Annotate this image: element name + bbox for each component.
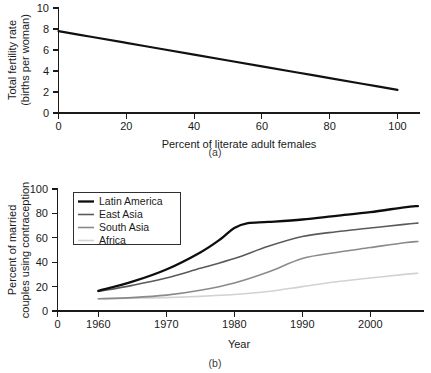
y-axis-ticks [52, 189, 58, 311]
y-axis-title-line1: Percent of married [6, 205, 18, 295]
legend-label-latin-america: Latin America [99, 195, 163, 207]
y-axis-title: Percent of married couples using contrac… [6, 182, 31, 318]
panel-b-caption: (b) [209, 357, 222, 369]
y-tick-label: 8 [43, 23, 49, 35]
y-tick-label: 40 [36, 256, 48, 268]
y-axis-title-line2: (births per woman) [19, 14, 31, 106]
x-tick-label: 1960 [86, 318, 110, 330]
figure-container: 0 2 4 6 8 10 0 20 [0, 0, 431, 373]
y-tick-label: 0 [43, 107, 49, 119]
y-axis-title-line1: Total fertility rate [6, 20, 18, 100]
y-tick-label: 80 [36, 207, 48, 219]
y-axis-title-line2: couples using contraception [19, 182, 31, 318]
y-tick-label: 60 [36, 232, 48, 244]
x-axis-title: Year [228, 338, 251, 350]
x-axis-tick-labels: 0 20 40 60 80 100 [55, 120, 406, 132]
y-axis-tick-labels: 0 2 4 6 8 10 [37, 2, 49, 119]
x-tick-label: 2000 [358, 318, 382, 330]
legend[interactable]: Latin America East Asia South Asia Afric… [73, 193, 180, 247]
x-tick-label: 40 [188, 120, 200, 132]
fertility-rate-line [59, 31, 398, 90]
y-axis-tick-labels: 0 20 40 60 80 100 [30, 183, 48, 317]
legend-label-east-asia: East Asia [99, 208, 143, 220]
y-tick-label: 2 [43, 86, 49, 98]
x-tick-label: 1980 [222, 318, 246, 330]
x-tick-label: 80 [324, 120, 336, 132]
x-axis-tick-labels: 0 1960 1970 1980 1990 2000 [54, 318, 382, 330]
panel-a-caption: (a) [209, 146, 222, 158]
y-tick-label: 0 [42, 305, 48, 317]
y-tick-label: 20 [36, 281, 48, 293]
x-tick-label: 1990 [290, 318, 314, 330]
y-axis-title: Total fertility rate (births per woman) [6, 14, 31, 106]
x-tick-label: 100 [388, 120, 406, 132]
y-tick-label: 4 [43, 65, 49, 77]
x-tick-label: 0 [54, 318, 60, 330]
x-axis-ticks [58, 311, 371, 317]
y-tick-label: 6 [43, 44, 49, 56]
chart-panel-b: 0 20 40 60 80 100 0 [0, 160, 431, 373]
y-tick-label: 10 [37, 2, 49, 14]
x-tick-label: 1970 [154, 318, 178, 330]
panel-a-plot-area: 0 2 4 6 8 10 0 20 [37, 2, 420, 132]
y-axis-ticks [53, 8, 59, 113]
x-tick-label: 20 [120, 120, 132, 132]
panel-a-caption-wrap: (a) [0, 144, 431, 160]
legend-label-africa: Africa [99, 234, 126, 246]
legend-label-south-asia: South Asia [99, 221, 149, 233]
chart-panel-a: 0 2 4 6 8 10 0 20 [0, 0, 431, 160]
x-tick-label: 0 [55, 120, 61, 132]
fertility-literacy-line-chart: 0 2 4 6 8 10 0 20 [0, 0, 431, 160]
x-tick-label: 60 [256, 120, 268, 132]
contraception-year-line-chart: 0 20 40 60 80 100 0 [0, 160, 431, 373]
x-axis-ticks [59, 113, 398, 119]
y-tick-label: 100 [30, 183, 48, 195]
